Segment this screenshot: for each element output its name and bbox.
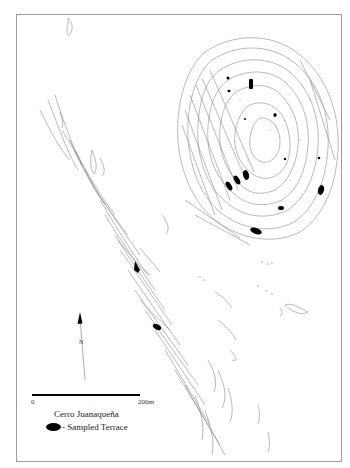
legend: - Sampled Terrace [46,422,128,432]
sampled-terrace [284,158,286,160]
rubble-marks [199,99,310,294]
north-label: N [79,339,83,345]
sampled-terrace [278,206,284,210]
legend-label: - Sampled Terrace [62,422,128,432]
sampled-terrace [318,157,321,160]
ridge-contours [40,18,308,455]
north-arrow [78,312,86,380]
sampled-terrace [228,90,231,93]
sampled-terrace [317,184,325,195]
sampled-terrace [227,77,230,80]
scale-end-label: 200m [138,398,154,406]
terrace-map [0,0,350,468]
sampled-terrace [244,118,246,120]
sampled-terrace-legend-icon [46,423,61,431]
site-name: Cerro Juanaqueña [54,409,119,419]
hill-contours [178,38,339,245]
scale-start-label: 0 [31,398,35,406]
sampled-terrace [273,113,276,117]
sampled-terrace [249,79,253,89]
